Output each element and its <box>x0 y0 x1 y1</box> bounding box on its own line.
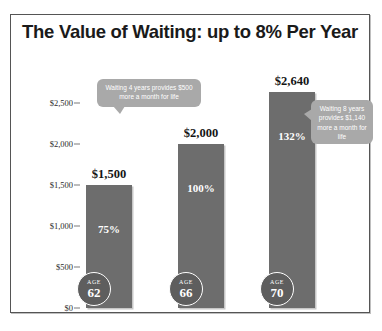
y-axis-tick-label: $2,500 <box>13 98 73 108</box>
callout-text: Waiting 8 years provides $1,140 more a m… <box>317 105 367 140</box>
y-axis-tick-mark <box>74 308 80 309</box>
callout-waiting-4-years: Waiting 4 years provides $500 more a mon… <box>97 79 201 107</box>
age-badge-number: 70 <box>271 286 284 299</box>
y-axis-tick-label: $2,000 <box>13 139 73 149</box>
chart-frame: The Value of Waiting: up to 8% Per Year … <box>10 14 370 313</box>
age-badge: AGE62 <box>77 272 111 306</box>
chart-title: The Value of Waiting: up to 8% Per Year <box>11 21 369 43</box>
bar-percent-label: 100% <box>178 182 224 194</box>
age-badge: AGE66 <box>169 272 203 306</box>
age-badge-number: 62 <box>88 286 101 299</box>
y-axis-tick-mark <box>74 103 80 104</box>
age-badge-number: 66 <box>180 286 193 299</box>
y-axis-tick-label: $1,000 <box>13 221 73 231</box>
callout-text: Waiting 4 years provides $500 more a mon… <box>105 84 192 100</box>
y-axis-tick-label: $1,500 <box>13 180 73 190</box>
bar-group: $2,640132% <box>269 47 315 308</box>
y-axis-tick-mark <box>74 226 80 227</box>
y-axis-tick-mark <box>74 185 80 186</box>
y-axis-tick-label: $500 <box>13 262 73 272</box>
callout-tail-icon <box>113 106 125 114</box>
bar-percent-label: 132% <box>269 130 315 142</box>
y-axis-tick-mark <box>74 267 80 268</box>
plot-area: $2,500$2,000$1,500$1,000$500$0 $1,50075%… <box>11 53 371 314</box>
bar-value-label: $2,640 <box>269 74 315 89</box>
callout-tail-icon <box>304 109 312 121</box>
bar-value-label: $2,000 <box>178 126 224 141</box>
y-axis-tick-mark <box>74 144 80 145</box>
age-badge: AGE70 <box>260 272 294 306</box>
bar-value-label: $1,500 <box>86 167 132 182</box>
bar-percent-label: 75% <box>86 223 132 235</box>
callout-waiting-8-years: Waiting 8 years provides $1,140 more a m… <box>311 100 373 144</box>
y-axis-tick-label: $0 <box>13 303 73 313</box>
